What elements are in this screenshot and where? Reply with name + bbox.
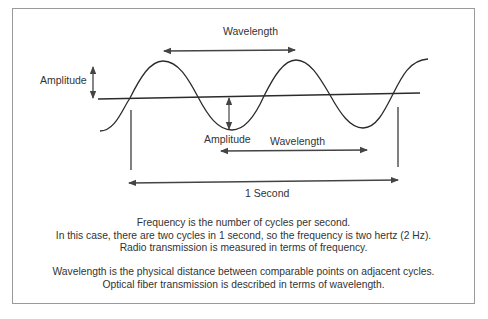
wavelength-caption: Wavelength is the physical distance betw… [12, 266, 475, 291]
wavelength-top-arrow [164, 50, 295, 51]
wavelength-bottom-label: Wavelength [270, 135, 325, 147]
wavelength-bottom-arrow [221, 150, 367, 151]
baseline [98, 93, 420, 99]
one-second-label: 1 Second [245, 187, 289, 199]
caption-line: Frequency is the number of cycles per se… [12, 217, 475, 230]
sine-wave [100, 59, 428, 131]
amplitude-left-label: Amplitude [40, 74, 87, 86]
amplitude-bottom-label: Amplitude [204, 133, 251, 145]
caption-line: Radio transmission is measured in terms … [12, 242, 475, 255]
caption-line: In this case, there are two cycles in 1 … [12, 230, 475, 243]
one-second-arrow [129, 180, 398, 183]
caption-line: Wavelength is the physical distance betw… [12, 266, 475, 279]
frequency-caption: Frequency is the number of cycles per se… [12, 217, 475, 255]
caption-line: Optical fiber transmission is described … [12, 279, 475, 292]
wavelength-top-label: Wavelength [223, 25, 278, 37]
